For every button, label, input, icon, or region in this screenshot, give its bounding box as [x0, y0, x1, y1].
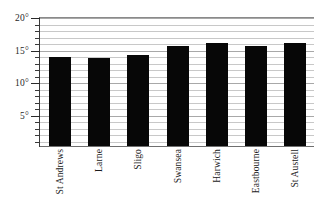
x-axis-label-slot: St Andrews	[39, 149, 78, 221]
bar	[206, 43, 228, 147]
y-tick-minor	[35, 57, 40, 58]
y-tick-minor	[35, 129, 40, 130]
y-tick-minor	[35, 103, 40, 104]
y-tick-minor	[35, 70, 40, 71]
y-tick-minor	[35, 77, 40, 78]
y-tick-minor	[35, 142, 40, 143]
x-axis-tick-label: St Andrews	[53, 149, 64, 195]
x-axis-label-slot: Swansea	[157, 149, 196, 221]
bar	[127, 55, 149, 147]
bar	[167, 46, 189, 147]
bar	[284, 43, 306, 147]
y-tick-minor	[35, 64, 40, 65]
y-axis-tick-label: 20°	[15, 13, 29, 23]
y-tick-minor	[35, 135, 40, 136]
x-axis-label-slot: St Austell	[275, 149, 314, 221]
x-axis-label-slot: Larne	[78, 149, 117, 221]
gridline-minor	[40, 31, 314, 32]
bar	[49, 57, 71, 147]
gridline-minor	[40, 38, 314, 39]
x-axis-label-slot: Eastbourne	[235, 149, 274, 221]
bar	[88, 58, 110, 147]
x-axis-labels: St AndrewsLarneSligoSwanseaHarwichEastbo…	[39, 149, 314, 221]
bar	[245, 46, 267, 147]
x-axis-tick-label: Eastbourne	[250, 149, 261, 193]
y-axis-tick-label: 10°	[15, 78, 29, 88]
x-axis-tick-label: Larne	[92, 149, 103, 172]
y-tick-minor	[35, 38, 40, 39]
bar-chart: 5°10°15°20° St AndrewsLarneSligoSwanseaH…	[0, 0, 322, 222]
y-tick-major	[31, 83, 40, 84]
y-tick-minor	[35, 109, 40, 110]
x-axis-tick-label: Sligo	[132, 149, 143, 170]
gridline-minor	[40, 25, 314, 26]
x-axis-line	[40, 146, 314, 147]
x-axis-label-slot: Sligo	[118, 149, 157, 221]
y-tick-major	[31, 116, 40, 117]
y-tick-minor	[35, 44, 40, 45]
x-axis-tick-label: St Austell	[289, 149, 300, 188]
plot-area: 5°10°15°20°	[39, 17, 314, 147]
y-axis-tick-label: 15°	[15, 46, 29, 56]
y-tick-minor	[35, 96, 40, 97]
y-tick-major	[31, 51, 40, 52]
y-tick-minor	[35, 90, 40, 91]
y-tick-minor	[35, 25, 40, 26]
gridline-major	[40, 18, 314, 19]
y-tick-major	[31, 18, 40, 19]
x-axis-tick-label: Swansea	[171, 149, 182, 183]
x-axis-tick-label: Harwich	[210, 149, 221, 183]
y-tick-minor	[35, 31, 40, 32]
y-tick-minor	[35, 122, 40, 123]
x-axis-label-slot: Harwich	[196, 149, 235, 221]
y-axis-tick-label: 5°	[20, 111, 29, 121]
